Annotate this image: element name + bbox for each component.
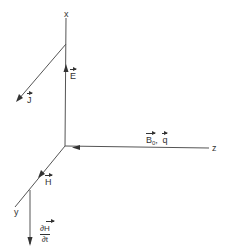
z-axis-label: z xyxy=(212,144,217,153)
j-vector-label: J xyxy=(27,92,32,105)
q-vector-symbol: q xyxy=(162,132,167,145)
b0-subscript: 0 xyxy=(152,140,155,146)
dhdt-numerator: ∂H xyxy=(40,221,50,235)
y-axis-label: y xyxy=(14,208,19,217)
e-vector-symbol: E xyxy=(70,68,76,81)
b0-vector-symbol: B0 xyxy=(146,132,155,146)
dhdt-vector-arrowhead xyxy=(28,237,33,246)
x-axis-label: x xyxy=(64,10,69,19)
dhdt-denominator: ∂t xyxy=(42,235,48,244)
j-vector-symbol: J xyxy=(27,92,32,105)
j-vector-line xyxy=(18,44,66,100)
h-vector-label: H xyxy=(45,174,52,187)
coordinate-diagram xyxy=(0,0,227,250)
b0-q-vector-label: B0, q xyxy=(146,132,167,146)
h-vector-symbol: H xyxy=(45,174,52,187)
e-vector-label: E xyxy=(70,68,76,81)
z-axis-line xyxy=(65,146,209,148)
x-axis-line xyxy=(65,18,66,146)
e-vector-arrowhead xyxy=(64,64,69,72)
b0-q-separator: , xyxy=(155,135,158,145)
dhdt-vector-label: ∂H ∂t xyxy=(40,221,50,244)
